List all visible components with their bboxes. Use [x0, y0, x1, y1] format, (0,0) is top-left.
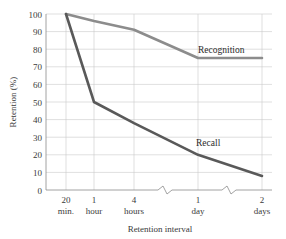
series-annotation-recognition: Recognition	[198, 45, 245, 55]
x-tick-label-line2: days	[254, 206, 271, 216]
y-tick-label: 60	[33, 80, 43, 90]
y-tick-labels: 100 90 80 70 60 50 40 30 20 10 0	[29, 10, 43, 196]
y-tick-label: 70	[33, 62, 43, 72]
chart-canvas: 100 90 80 70 60 50 40 30 20 10 0 Retenti…	[0, 0, 286, 239]
x-axis-title: Retention interval	[128, 224, 193, 234]
x-tick-label-line2: day	[192, 206, 205, 216]
y-tick-label: 30	[33, 133, 43, 143]
x-tick-labels: 20 min. 1 hour 4 hours 1 day 2 days	[58, 195, 271, 216]
x-tick-label-line1: 1	[92, 195, 97, 205]
y-tick-label: 40	[33, 115, 43, 125]
x-tick-label-line2: hour	[86, 206, 103, 216]
y-tick-label: 50	[33, 98, 43, 108]
retention-line-chart: 100 90 80 70 60 50 40 30 20 10 0 Retenti…	[0, 0, 286, 239]
x-tick-label-line2: hours	[124, 206, 144, 216]
x-tick-label-line1: 2	[260, 195, 265, 205]
y-tick-label: 10	[33, 168, 43, 178]
y-tick-label: 100	[29, 10, 43, 20]
x-tick-label-line1: 1	[196, 195, 201, 205]
y-tick-label: 80	[33, 45, 43, 55]
y-tick-label: 90	[33, 27, 43, 37]
y-tick-label: 0	[38, 186, 43, 196]
x-tick-label-line1: 20	[62, 195, 72, 205]
x-tick-label-line1: 4	[132, 195, 137, 205]
y-tick-label: 20	[33, 150, 43, 160]
x-tick-label-line2: min.	[58, 206, 74, 216]
y-axis-title: Retention (%)	[8, 77, 18, 128]
series-annotation-recall: Recall	[196, 138, 221, 148]
